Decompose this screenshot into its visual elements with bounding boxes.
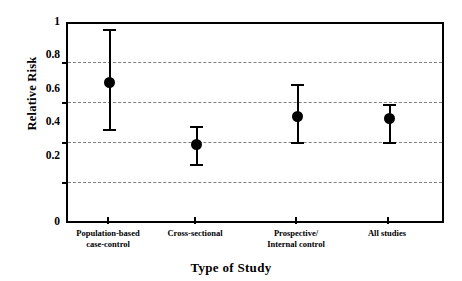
x-category-label-prospective-internal-control: Prospective/ Internal control — [248, 228, 344, 251]
point-marker — [292, 111, 303, 122]
errorbar-cap-lower — [190, 164, 203, 166]
y-tick-label-1: 1 — [40, 15, 60, 27]
errorbar-cap-lower — [103, 129, 116, 131]
errorbar-cap-lower — [383, 142, 396, 144]
errorbar-cap-upper — [383, 104, 396, 106]
plot-area — [66, 22, 444, 223]
gridline-0.6 — [68, 102, 442, 103]
errorbar-cap-lower — [291, 142, 304, 144]
x-tick-mark-4 — [387, 217, 389, 224]
y-tick-label-0.8: 0.8 — [30, 48, 60, 60]
y-tick-label-0.6: 0.6 — [30, 82, 60, 94]
x-category-label-cross-sectional: Cross-sectional — [152, 228, 238, 239]
x-tick-mark-3 — [295, 217, 297, 224]
x-axis-title: Type of Study — [0, 260, 462, 276]
x-category-label-population-based-case-control: Population-based case-control — [62, 228, 154, 251]
y-tick-label-0.2: 0.2 — [30, 149, 60, 161]
point-marker — [104, 77, 115, 88]
gridline-0.2 — [68, 182, 442, 183]
x-tick-mark-1 — [107, 217, 109, 224]
y-tick-label-0: 0 — [40, 215, 60, 227]
errorbar-cap-upper — [103, 29, 116, 31]
gridline-0.8 — [68, 62, 442, 63]
relative-risk-forest-chart: Relative Risk 1 0.8 0.6 0.4 0.2 0 — [0, 0, 462, 281]
point-marker — [384, 113, 395, 124]
y-tick-label-0.4: 0.4 — [30, 115, 60, 127]
errorbar-cap-upper — [291, 84, 304, 86]
errorbar-cap-upper — [190, 126, 203, 128]
x-category-label-all-studies: All studies — [345, 228, 429, 239]
point-marker — [191, 139, 202, 150]
x-tick-mark-2 — [194, 217, 196, 224]
